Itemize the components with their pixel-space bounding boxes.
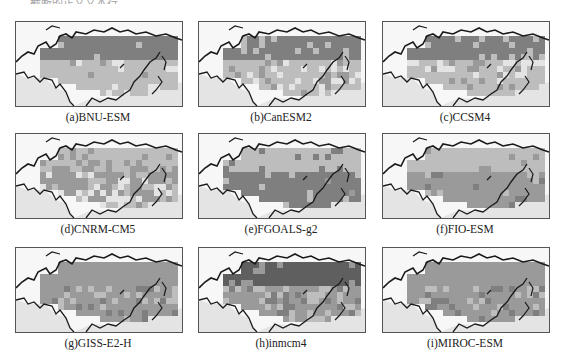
eurasia-map-h [199, 248, 365, 332]
map-panel-c [382, 21, 550, 107]
map-panel-h [198, 247, 366, 333]
eurasia-map-e [199, 134, 365, 218]
panel-caption-f: (f)FIO-ESM [375, 223, 555, 235]
panel-caption-g: (g)GISS-E2-H [8, 337, 188, 349]
map-panel-e [198, 133, 366, 219]
panel-caption-h: (h)inmcm4 [191, 337, 371, 349]
panel-caption-d: (d)CNRM-CM5 [8, 223, 188, 235]
map-panel-i [382, 247, 550, 333]
map-panel-a [15, 21, 183, 107]
panel-caption-i: (i)MIROC-ESM [375, 337, 555, 349]
eurasia-map-g [16, 248, 182, 332]
eurasia-map-i [383, 248, 549, 332]
map-panel-d [15, 133, 183, 219]
truncated-body-text: — 截断的正文文本行 — [16, 0, 376, 4]
eurasia-map-b [199, 22, 365, 106]
panel-caption-a: (a)BNU-ESM [8, 111, 188, 123]
panel-caption-c: (c)CCSM4 [375, 111, 555, 123]
map-panel-b [198, 21, 366, 107]
panel-caption-e: (e)FGOALS-g2 [191, 223, 371, 235]
eurasia-map-d [16, 134, 182, 218]
eurasia-map-f [383, 134, 549, 218]
eurasia-map-a [16, 22, 182, 106]
panel-caption-b: (b)CanESM2 [191, 111, 371, 123]
map-panel-g [15, 247, 183, 333]
eurasia-map-c [383, 22, 549, 106]
map-panel-f [382, 133, 550, 219]
